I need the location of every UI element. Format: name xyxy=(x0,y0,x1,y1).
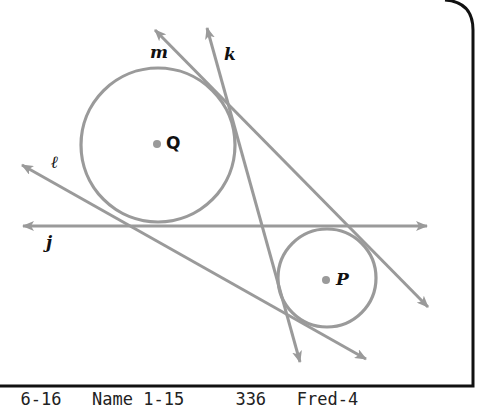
center-point-q xyxy=(153,140,161,148)
line-label-m: m xyxy=(150,44,168,61)
line-m xyxy=(155,30,428,307)
center-points-group xyxy=(153,140,330,284)
page-caption: 6-16 Name 1-15 336 Fred-4 xyxy=(0,391,481,409)
tangent-lines-group xyxy=(22,28,428,362)
center-label-p: P xyxy=(336,271,349,288)
center-point-p xyxy=(322,276,330,284)
line-label-l: ℓ xyxy=(51,154,58,171)
line-l xyxy=(22,165,366,359)
line-label-j: j xyxy=(46,234,52,251)
line-k xyxy=(207,28,300,362)
center-label-q: Q xyxy=(166,135,180,152)
line-label-k: k xyxy=(224,46,236,63)
